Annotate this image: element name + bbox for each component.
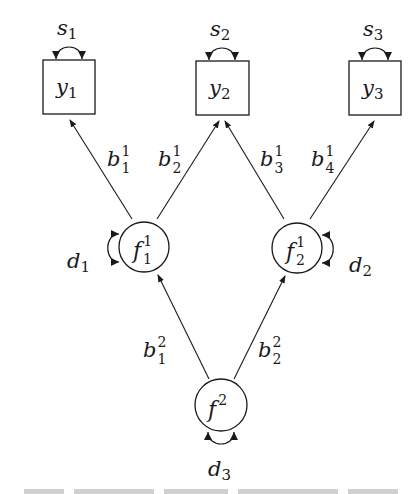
observed-box-y1: y1: [43, 60, 95, 114]
factor-node-f2: f2: [195, 379, 247, 431]
label-b2-1: b12: [158, 143, 181, 176]
error-loop-s1: s1: [52, 16, 86, 59]
svg-text:s2: s2: [210, 17, 230, 44]
observed-box-y3: y3: [349, 61, 401, 115]
svg-text:s1: s1: [57, 16, 77, 43]
factor-node-f2-1: f12: [272, 223, 322, 273]
error-loop-s3: s3: [358, 17, 392, 60]
path-diagram: y1 y2 y3 s1 s2 s3 b11 b12 b13 b14 f11: [0, 0, 415, 494]
label-b1-1: b11: [107, 143, 130, 176]
label-b4-1: b14: [311, 143, 334, 176]
svg-text:d2: d2: [349, 253, 372, 280]
factor-node-f1-1: f11: [119, 222, 169, 272]
label-b2-2: b22: [258, 334, 281, 367]
observed-box-y2: y2: [196, 61, 249, 115]
label-b3-1: b13: [260, 143, 283, 176]
caption-fragment: [24, 489, 398, 494]
disturbance-loop-d3: d3: [204, 432, 238, 484]
disturbance-loop-d1: d1: [67, 230, 119, 276]
svg-text:d3: d3: [208, 457, 231, 484]
svg-text:s3: s3: [363, 17, 383, 44]
svg-text:d1: d1: [67, 249, 90, 276]
label-b1-2: b21: [143, 334, 166, 367]
error-loop-s2: s2: [205, 17, 239, 60]
disturbance-loop-d2: d2: [322, 231, 372, 280]
